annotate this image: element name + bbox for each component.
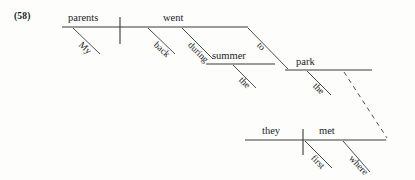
sentence-diagram-figure: (58) parents My went ba xyxy=(0,0,415,180)
to-preposition-line xyxy=(248,28,288,69)
word-subject-parents: parents xyxy=(68,12,98,23)
word-object-park: park xyxy=(296,56,315,67)
word-verb-went: went xyxy=(163,12,183,23)
word-relative-verb-met: met xyxy=(319,125,335,136)
word-relative-subject-they: they xyxy=(262,125,280,136)
relative-clause-connector-dashed xyxy=(344,72,387,138)
word-object-summer: summer xyxy=(212,50,246,61)
